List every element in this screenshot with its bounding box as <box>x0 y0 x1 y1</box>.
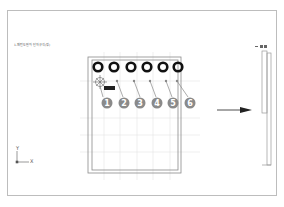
badge-1: 1 <box>104 99 110 108</box>
badge-3: 3 <box>137 99 143 108</box>
axis-y-label: Y <box>16 145 19 151</box>
terminal-holes <box>94 63 183 72</box>
terminal-plate <box>88 57 181 173</box>
axis-icon <box>16 151 29 163</box>
badge-4: 4 <box>154 99 160 108</box>
badge-5: 5 <box>170 99 176 108</box>
arrow-right-icon <box>217 107 252 113</box>
side-view-header <box>255 45 267 48</box>
badge-2: 2 <box>121 99 127 108</box>
tag-label <box>104 86 115 90</box>
side-view <box>262 51 271 165</box>
badge-6: 6 <box>187 99 193 108</box>
axis-x-label: X <box>30 158 33 164</box>
drawing-canvas: 1 2 3 4 5 6 <box>0 0 284 207</box>
